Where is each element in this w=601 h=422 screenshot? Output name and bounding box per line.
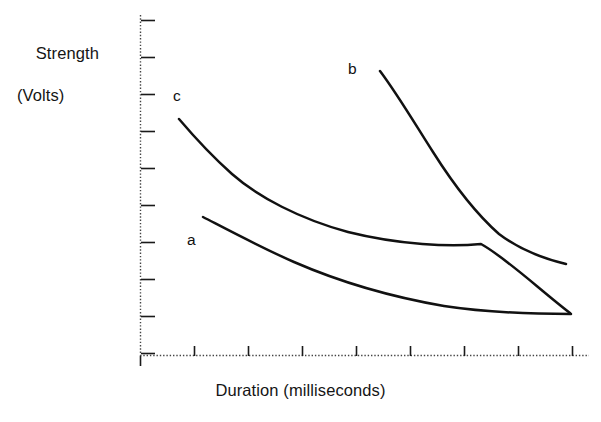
curve-label-b: b bbox=[348, 60, 357, 78]
y-axis-ticks bbox=[141, 21, 155, 354]
curve-label-a: a bbox=[187, 231, 196, 249]
chart-figure: Strength (Volts) Duration (milliseconds)… bbox=[0, 0, 601, 422]
y-axis-label: Strength (Volts) bbox=[17, 22, 99, 148]
curve-label-c: c bbox=[173, 87, 181, 105]
curve-b bbox=[380, 71, 566, 264]
curve-c bbox=[179, 119, 570, 313]
y-axis-label-line1: Strength bbox=[36, 44, 99, 62]
x-axis-ticks bbox=[141, 346, 573, 366]
y-axis-label-line2: (Volts) bbox=[17, 85, 99, 106]
x-axis-label: Duration (milliseconds) bbox=[0, 380, 601, 401]
curve-a bbox=[203, 217, 571, 314]
